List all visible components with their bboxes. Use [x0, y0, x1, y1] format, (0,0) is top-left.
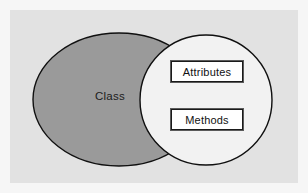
methods-box-label: Methods: [185, 114, 229, 126]
attributes-box-label: Attributes: [183, 66, 231, 78]
methods-box: Methods: [171, 109, 243, 130]
attributes-box: Attributes: [171, 61, 243, 82]
diagram-canvas: Class Attributes Methods: [0, 0, 308, 193]
compartment-ellipse: [140, 35, 272, 165]
diagram-shapes: [0, 0, 308, 193]
class-label: Class: [78, 90, 142, 102]
